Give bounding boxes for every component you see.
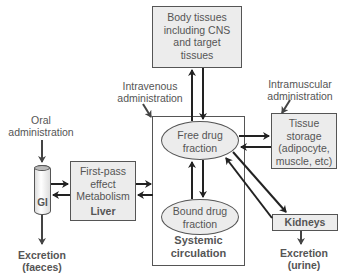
arrow-intramuscular xyxy=(282,100,290,113)
arrows-layer xyxy=(0,0,344,276)
arrow-intravenous xyxy=(143,104,151,117)
